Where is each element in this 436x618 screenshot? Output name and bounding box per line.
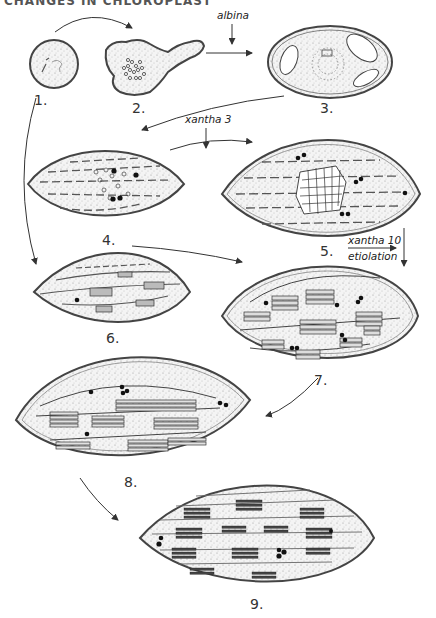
stage-label-7: 7. xyxy=(314,372,327,388)
stage-9-mature-chloroplast xyxy=(140,486,374,582)
stage-4-plastid xyxy=(28,140,184,216)
stage-label-4: 4. xyxy=(102,232,115,248)
treatment-label-etiolation: etiolation xyxy=(348,250,397,262)
stage-2-amoeboid-plastid xyxy=(106,40,204,95)
stage-label-8: 8. xyxy=(124,474,137,490)
stage-6-plastid xyxy=(34,253,190,322)
stage-label-1: 1. xyxy=(34,92,47,108)
arrow-7-to-8 xyxy=(266,378,318,416)
stage-5-prolamellar-body-plastid xyxy=(222,140,420,236)
arrow-4-to-5 xyxy=(170,140,252,150)
arrow-8-to-9 xyxy=(80,478,118,520)
treatment-label-albina: albina xyxy=(217,9,249,21)
stage-label-6: 6. xyxy=(106,330,119,346)
stage-label-5: 5. xyxy=(320,243,333,259)
arrow-1-to-2 xyxy=(55,17,132,32)
stage-label-9: 9. xyxy=(250,596,263,612)
treatment-label-xantha3: xantha 3 xyxy=(185,113,232,125)
treatment-label-xantha10: xantha 10 xyxy=(348,234,401,246)
stage-3-albina-plastid xyxy=(268,26,392,98)
stage-7-plastid xyxy=(222,267,418,360)
stage-label-2: 2. xyxy=(132,100,145,116)
stage-1-proplastid xyxy=(30,40,78,88)
diagram-svg xyxy=(0,0,436,618)
stage-label-3: 3. xyxy=(320,100,333,116)
stage-8-plastid xyxy=(16,357,250,455)
page-header: CHANGES IN CHLOROPLAST xyxy=(4,0,212,8)
plastid-development-diagram: CHANGES IN CHLOROPLAST 1. 2. 3. 4. 5. 6.… xyxy=(0,0,436,618)
